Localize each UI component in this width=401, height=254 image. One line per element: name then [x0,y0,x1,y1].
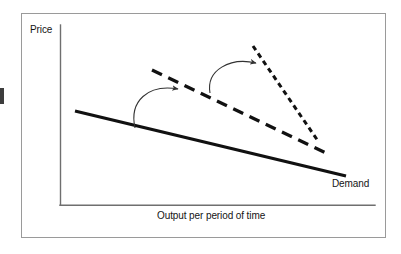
y-axis-label: Price [30,24,52,35]
demand-curve-label: Demand [332,178,369,189]
demand-curve-figure: Price Demand Output per period of time [0,0,401,254]
figure-border [22,14,386,238]
x-axis-label: Output per period of time [157,210,265,221]
page-edge-artifact [0,88,4,104]
